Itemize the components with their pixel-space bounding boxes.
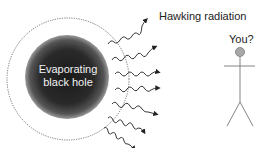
- observer-head: [236, 48, 245, 57]
- wavy-arrow-icon: [115, 86, 158, 92]
- wavy-arrow-icon: [108, 20, 146, 44]
- black-hole-label-line1: Evaporating: [37, 63, 99, 76]
- observer-label: You?: [229, 33, 254, 45]
- wavy-arrow-icon: [112, 102, 156, 114]
- observer-stick-figure: [224, 48, 255, 127]
- hawking-radiation-label: Hawking radiation: [159, 10, 246, 22]
- black-hole-label-line2: black hole: [37, 76, 99, 89]
- wavy-arrow-icon: [104, 127, 134, 148]
- wavy-arrow-icon: [112, 47, 155, 61]
- black-hole-label: Evaporating black hole: [37, 63, 99, 89]
- wavy-arrow-icon: [115, 72, 158, 76]
- hawking-radiation-rays: [104, 20, 158, 148]
